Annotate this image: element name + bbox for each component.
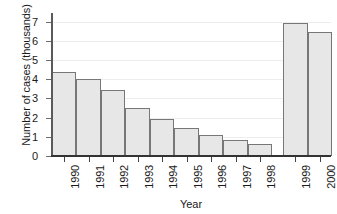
x-tick-label: 1994 xyxy=(167,165,179,189)
x-tick-label: 1991 xyxy=(94,165,106,189)
x-tick xyxy=(295,157,296,162)
y-tick-label: 5 xyxy=(24,55,38,66)
y-axis-spine xyxy=(51,13,53,156)
plot-area: 01234567 1990199119921993199419951996199… xyxy=(51,16,331,156)
bar xyxy=(76,79,100,156)
x-axis-spine xyxy=(51,155,331,157)
y-tick-label: 3 xyxy=(24,93,38,104)
y-tick-label: 7 xyxy=(24,16,38,27)
y-tick-label: 0 xyxy=(24,151,38,162)
bar xyxy=(199,135,223,156)
x-tick xyxy=(320,157,321,162)
x-tick xyxy=(113,157,114,162)
x-tick-label: 2000 xyxy=(325,165,337,189)
x-tick-label: 1992 xyxy=(118,165,130,189)
bar xyxy=(52,72,76,156)
x-tick xyxy=(236,157,237,162)
x-tick-label: 1996 xyxy=(216,165,228,189)
x-tick xyxy=(162,157,163,162)
y-tick-label: 1 xyxy=(24,131,38,142)
bar xyxy=(150,119,174,156)
bar xyxy=(283,23,307,156)
bar xyxy=(125,108,149,156)
bar xyxy=(101,90,125,156)
x-tick xyxy=(138,157,139,162)
x-tick-label: 1990 xyxy=(69,165,81,189)
bar xyxy=(174,128,198,156)
x-tick-label: 1999 xyxy=(300,165,312,189)
x-tick xyxy=(64,157,65,162)
x-tick-label: 1998 xyxy=(265,165,277,189)
x-axis-title: Year xyxy=(51,198,331,210)
x-tick xyxy=(260,157,261,162)
x-tick-label: 1997 xyxy=(241,165,253,189)
y-tick-label: 4 xyxy=(24,74,38,85)
y-tick-label: 2 xyxy=(24,112,38,123)
bar xyxy=(308,32,332,156)
y-tick-label: 6 xyxy=(24,35,38,46)
x-tick xyxy=(211,157,212,162)
bar-chart-figure: Number of cases (thousands) 01234567 199… xyxy=(0,0,337,214)
x-tick xyxy=(187,157,188,162)
x-tick xyxy=(89,157,90,162)
bar xyxy=(223,140,247,156)
x-tick-label: 1993 xyxy=(143,165,155,189)
x-tick-label: 1995 xyxy=(192,165,204,189)
